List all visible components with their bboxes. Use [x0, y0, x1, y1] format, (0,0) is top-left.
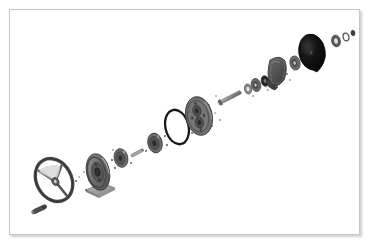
callout-dot	[78, 176, 79, 177]
end-nut-body	[350, 30, 355, 36]
callout-dot	[211, 125, 213, 127]
part-end-nut	[350, 30, 355, 36]
callout-dot	[188, 111, 190, 113]
part-washer-3	[331, 34, 342, 47]
washer-4-body	[342, 33, 349, 42]
part-handwheel	[28, 152, 80, 208]
callout-dot	[267, 89, 269, 91]
callout-dot	[130, 162, 132, 164]
part-washer-4	[342, 33, 349, 42]
part-hex-bolt	[218, 89, 242, 105]
callout-dot	[270, 84, 271, 85]
callout-dot	[215, 95, 216, 96]
callout-dot	[286, 73, 288, 75]
callout-dot	[164, 135, 166, 137]
exploded-assembly-diagram	[0, 0, 373, 251]
callout-dot	[208, 104, 210, 106]
callout-dot	[83, 171, 85, 173]
callout-dot	[114, 167, 116, 169]
callout-dot	[289, 79, 291, 81]
callout-dot	[252, 95, 254, 97]
callout-dot	[166, 144, 168, 146]
part-spacer-shaft	[131, 148, 145, 157]
part-bearing-cap	[266, 57, 286, 90]
callout-dot	[219, 119, 221, 121]
hex-bolt-shank	[220, 90, 241, 103]
part-idler-gear-b	[146, 132, 164, 155]
callout-dot	[145, 150, 147, 152]
callout-dot	[191, 132, 193, 134]
callout-dot	[214, 112, 215, 113]
part-idler-gear-a	[112, 147, 129, 168]
callout-dot	[111, 159, 113, 161]
screenshot-root: Exploded assembly view	[0, 0, 373, 251]
callout-dot	[75, 180, 77, 182]
part-drum	[296, 32, 328, 72]
callout-dot	[85, 189, 87, 191]
part-rotor-disc	[182, 94, 216, 138]
spacer-shaft-body	[131, 149, 144, 158]
part-set-screw	[31, 204, 48, 215]
callout-dot	[112, 149, 114, 151]
